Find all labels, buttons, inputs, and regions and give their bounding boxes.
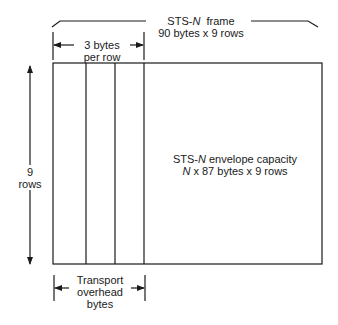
envelope-dim-suffix: x 87 bytes x 9 rows <box>193 165 287 177</box>
overhead-width-line1: 3 bytes <box>74 39 130 51</box>
rows-label: 9 rows <box>14 166 46 190</box>
envelope-label-prefix: STS- <box>173 153 198 165</box>
transport-overhead-line1: Transport <box>69 274 131 286</box>
rows-label-unit: rows <box>14 178 46 190</box>
overhead-width-line2: per row <box>74 51 130 63</box>
transport-overhead-line2: overhead <box>69 286 131 298</box>
frame-label-suffix: frame <box>207 15 235 27</box>
transport-overhead-label: Transport overhead bytes <box>69 274 131 310</box>
overhead-width-label: 3 bytes per row <box>74 39 130 63</box>
envelope-dim-var: N <box>182 165 190 177</box>
frame-bracket-left <box>52 21 146 27</box>
envelope-label-suffix: envelope capacity <box>209 153 297 165</box>
frame-label: STS-N frame 90 bytes x 9 rows <box>150 15 252 39</box>
transport-overhead-line3: bytes <box>69 298 131 310</box>
envelope-label: STS-N envelope capacity N x 87 bytes x 9… <box>160 153 310 177</box>
frame-bracket-right <box>251 21 318 27</box>
frame-label-var: N <box>192 15 200 27</box>
rows-label-count: 9 <box>14 166 46 178</box>
frame-label-prefix: STS- <box>167 15 192 27</box>
frame-label-dimensions: 90 bytes x 9 rows <box>150 27 252 39</box>
envelope-label-var: N <box>198 153 206 165</box>
